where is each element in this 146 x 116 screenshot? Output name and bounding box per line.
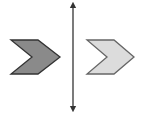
transformation-diagram [0,0,146,116]
diagram-canvas [0,0,146,116]
original-chevron [11,40,60,74]
image-chevron [87,40,134,74]
